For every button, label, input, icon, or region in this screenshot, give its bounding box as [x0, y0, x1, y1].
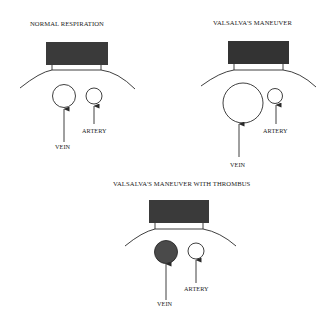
probe-footprint [155, 223, 203, 229]
panel-normal-respiration: NORMAL RESPIRATION VEIN ARTERY [20, 20, 135, 150]
panel-title: VALSALVA'S MANEUVER [213, 19, 292, 26]
artery-label: ARTERY [82, 127, 107, 134]
ultrasound-diagram: NORMAL RESPIRATION VEIN ARTERY VALSALVA'… [0, 0, 335, 315]
probe-footprint [52, 65, 101, 70]
transducer-probe [149, 200, 209, 223]
artery-circle [188, 243, 204, 259]
vein-circle [223, 83, 263, 123]
thrombosed-vein-circle [155, 241, 178, 264]
skin-surface [201, 70, 316, 87]
vein-circle [53, 85, 76, 108]
vein-label: VEIN [157, 300, 173, 307]
panel-title: NORMAL RESPIRATION [30, 20, 104, 27]
vein-label: VEIN [55, 143, 71, 150]
probe-footprint [234, 64, 283, 70]
transducer-probe [46, 42, 108, 65]
panel-valsalva-maneuver: VALSALVA'S MANEUVER VEIN ARTERY [201, 19, 316, 168]
skin-surface [20, 70, 135, 89]
vein-label: VEIN [230, 161, 246, 168]
artery-label: ARTERY [263, 127, 288, 134]
panel-valsalva-with-thrombus: VALSALVA'S MANEUVER WITH THROMBUS VEIN A… [113, 180, 251, 307]
artery-circle [86, 88, 102, 104]
transducer-probe [228, 41, 289, 64]
skin-surface [125, 229, 236, 246]
artery-circle [268, 89, 283, 104]
panel-title: VALSALVA'S MANEUVER WITH THROMBUS [113, 180, 251, 187]
artery-label: ARTERY [184, 285, 209, 292]
